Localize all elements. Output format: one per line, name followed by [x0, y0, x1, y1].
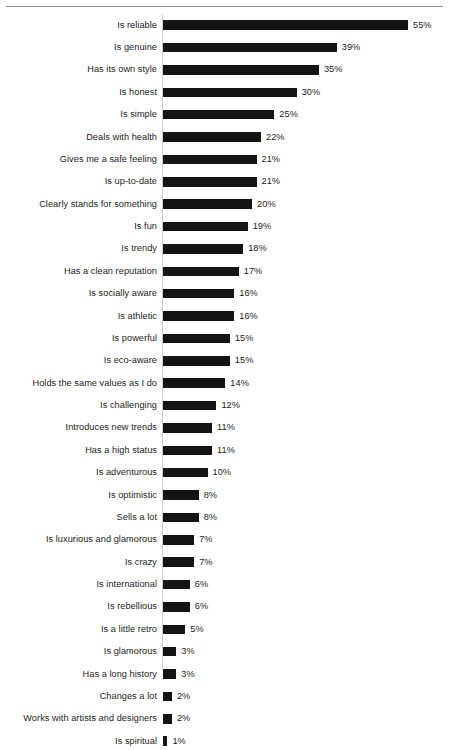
bar-and-value: 16%	[163, 311, 258, 322]
value-label: 6%	[195, 601, 208, 612]
bar-row: Is international6%	[0, 573, 453, 595]
category-label: Is glamorous	[0, 646, 157, 657]
bar-row: Is crazy7%	[0, 551, 453, 573]
value-label: 55%	[413, 20, 432, 31]
category-label: Is a little retro	[0, 624, 157, 635]
category-label: Is eco-aware	[0, 355, 157, 366]
value-label: 21%	[262, 154, 281, 165]
value-label: 14%	[230, 378, 249, 389]
category-label: Clearly stands for something	[0, 199, 157, 210]
value-label: 10%	[213, 467, 232, 478]
value-label: 18%	[248, 243, 267, 254]
bar	[163, 714, 172, 724]
bar-row: Is trendy18%	[0, 238, 453, 260]
value-label: 25%	[279, 109, 298, 120]
bar-and-value: 15%	[163, 355, 253, 366]
top-divider-rule	[6, 6, 443, 7]
value-label: 5%	[190, 624, 203, 635]
value-label: 35%	[324, 64, 343, 75]
bar	[163, 602, 190, 612]
bar	[163, 423, 212, 433]
bar-and-value: 18%	[163, 243, 267, 254]
bar	[163, 20, 408, 30]
bar-row: Is genuine39%	[0, 36, 453, 58]
category-label: Is crazy	[0, 557, 157, 568]
value-label: 7%	[199, 534, 212, 545]
bar	[163, 65, 319, 75]
category-label: Has a clean reputation	[0, 266, 157, 277]
bar	[163, 334, 230, 344]
bar-and-value: 5%	[163, 624, 204, 635]
category-label: Holds the same values as I do	[0, 378, 157, 389]
bar-and-value: 3%	[163, 646, 195, 657]
value-label: 17%	[244, 266, 263, 277]
bar	[163, 669, 176, 679]
bar-and-value: 21%	[163, 176, 280, 187]
category-label: Introduces new trends	[0, 422, 157, 433]
category-label: Is athletic	[0, 311, 157, 322]
bar-row: Sells a lot8%	[0, 506, 453, 528]
bar-and-value: 2%	[163, 713, 190, 724]
value-label: 16%	[239, 311, 258, 322]
value-label: 2%	[177, 713, 190, 724]
bar-and-value: 25%	[163, 109, 298, 120]
bar-and-value: 17%	[163, 266, 262, 277]
bar-and-value: 14%	[163, 378, 249, 389]
value-label: 19%	[253, 221, 272, 232]
bar-row: Has a long history3%	[0, 663, 453, 685]
bar-and-value: 7%	[163, 534, 213, 545]
category-label: Is rebellious	[0, 601, 157, 612]
bar-row: Is powerful15%	[0, 327, 453, 349]
value-label: 20%	[257, 199, 276, 210]
bar-row: Is socially aware16%	[0, 283, 453, 305]
category-label: Is adventurous	[0, 467, 157, 478]
bar-row: Is rebellious6%	[0, 596, 453, 618]
bar	[163, 43, 337, 53]
bar-and-value: 30%	[163, 87, 320, 98]
bar-and-value: 15%	[163, 333, 253, 344]
bar	[163, 267, 239, 277]
value-label: 8%	[204, 490, 217, 501]
bar	[163, 490, 199, 500]
bar	[163, 244, 243, 254]
bar-and-value: 16%	[163, 288, 258, 299]
bar-row: Is eco-aware15%	[0, 350, 453, 372]
bar	[163, 736, 167, 746]
bar-row: Changes a lot2%	[0, 685, 453, 707]
bar	[163, 222, 248, 232]
category-label: Is simple	[0, 109, 157, 120]
value-label: 3%	[181, 669, 194, 680]
bar	[163, 311, 234, 321]
bar-row: Is up-to-date21%	[0, 171, 453, 193]
bar-row: Is simple25%	[0, 104, 453, 126]
bar-row: Is fun19%	[0, 215, 453, 237]
category-label: Sells a lot	[0, 512, 157, 523]
bar	[163, 401, 216, 411]
bar-and-value: 10%	[163, 467, 231, 478]
bar-row: Is athletic16%	[0, 305, 453, 327]
bar	[163, 535, 194, 545]
bar-row: Is a little retro5%	[0, 618, 453, 640]
bar-and-value: 8%	[163, 490, 217, 501]
bar-and-value: 1%	[163, 736, 186, 747]
value-label: 1%	[172, 736, 185, 747]
bar	[163, 177, 257, 187]
bar-and-value: 19%	[163, 221, 271, 232]
category-label: Has a long history	[0, 669, 157, 680]
value-label: 7%	[199, 557, 212, 568]
bar-and-value: 2%	[163, 691, 190, 702]
value-label: 15%	[235, 333, 254, 344]
bar-and-value: 3%	[163, 669, 195, 680]
bar-rows: Is reliable55%Is genuine39%Has its own s…	[0, 14, 453, 750]
bar-row: Has its own style35%	[0, 59, 453, 81]
value-label: 2%	[177, 691, 190, 702]
bar	[163, 625, 185, 635]
bar	[163, 88, 297, 98]
category-label: Is honest	[0, 87, 157, 98]
plot-area: Is reliable55%Is genuine39%Has its own s…	[0, 14, 453, 750]
bar-and-value: 22%	[163, 132, 285, 143]
value-label: 11%	[217, 422, 235, 433]
bar-row: Deals with health22%	[0, 126, 453, 148]
bar-row: Works with artists and designers2%	[0, 708, 453, 730]
bar	[163, 132, 261, 142]
